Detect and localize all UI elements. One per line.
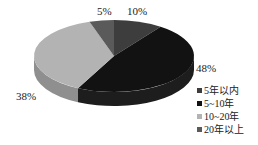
data-label-within-5y: 10% bbox=[127, 5, 147, 17]
data-label-10-20y: 38% bbox=[16, 90, 36, 102]
legend-swatch bbox=[197, 114, 202, 119]
legend-swatch bbox=[197, 88, 202, 93]
legend-swatch bbox=[197, 101, 202, 106]
data-label-5-10y: 48% bbox=[196, 62, 216, 74]
legend-label: 10~20年 bbox=[204, 110, 239, 123]
legend-item-within-5y: 5年以内 bbox=[197, 84, 244, 97]
legend-item-20y-plus: 20年以上 bbox=[197, 123, 244, 136]
legend-label: 5~10年 bbox=[204, 97, 234, 110]
legend-label: 5年以内 bbox=[204, 84, 239, 97]
data-label-20y-plus: 5% bbox=[97, 5, 112, 17]
legend-item-5-10y: 5~10年 bbox=[197, 97, 244, 110]
legend: 5年以内 5~10年 10~20年 20年以上 bbox=[197, 84, 244, 136]
legend-swatch bbox=[197, 127, 202, 132]
legend-item-10-20y: 10~20年 bbox=[197, 110, 244, 123]
legend-label: 20年以上 bbox=[204, 123, 244, 136]
